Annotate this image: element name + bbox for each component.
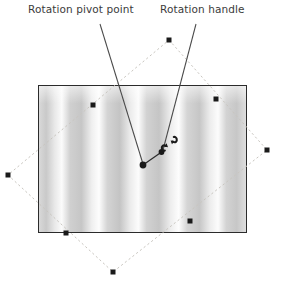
handle-right[interactable] bbox=[265, 148, 270, 153]
rotate-cursor-icon bbox=[162, 137, 177, 151]
leader-line-rotation-pivot-point bbox=[100, 24, 143, 164]
handle-top-left[interactable] bbox=[91, 103, 96, 108]
credit-line-wrapper: Source: Corel® Corporation. ©2013 Cengag… bbox=[280, 24, 292, 300]
rotation-figure: Rotation pivot point Rotation handle bbox=[0, 0, 295, 304]
selection-overlay bbox=[0, 0, 295, 304]
rotated-selection-bounding-box[interactable] bbox=[8, 40, 267, 272]
leader-line-rotation-handle bbox=[163, 24, 196, 150]
handle-bottom[interactable] bbox=[111, 270, 116, 275]
rotation-pivot-point-marker[interactable] bbox=[140, 162, 147, 169]
handle-top-right[interactable] bbox=[214, 97, 219, 102]
handle-bottom-right[interactable] bbox=[188, 219, 193, 224]
handle-top[interactable] bbox=[167, 38, 172, 43]
handle-left[interactable] bbox=[6, 173, 11, 178]
handle-bottom-left[interactable] bbox=[64, 231, 69, 236]
